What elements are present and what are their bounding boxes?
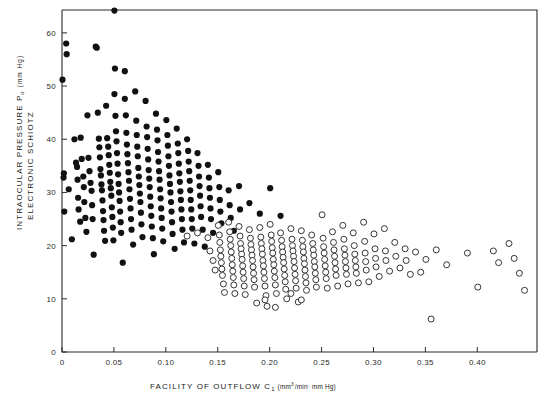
data-point-open [322, 263, 328, 269]
data-point-open [393, 253, 399, 259]
data-point-filled [104, 135, 110, 141]
data-point-filled [257, 211, 263, 217]
data-point-open [333, 266, 339, 272]
data-point-filled [139, 234, 145, 240]
data-point-filled [101, 228, 107, 234]
data-point-open [341, 236, 347, 242]
data-point-filled [80, 173, 86, 179]
data-point-filled [202, 244, 208, 250]
data-points [59, 7, 527, 322]
data-point-filled [125, 160, 131, 166]
data-point-filled [126, 178, 132, 184]
data-point-filled [146, 167, 152, 173]
data-point-open [355, 280, 361, 286]
plot-canvas: 00.050.100.150.200.250.300.350.400102030… [0, 0, 551, 407]
data-point-filled [128, 216, 134, 222]
data-point-open [353, 264, 359, 270]
data-point-filled [207, 195, 213, 201]
data-point-open [258, 234, 264, 240]
data-point-open [332, 260, 338, 266]
data-point-filled [208, 216, 214, 222]
data-point-filled [148, 213, 154, 219]
data-point-filled [197, 193, 203, 199]
data-point-filled [61, 170, 67, 176]
data-point-filled [160, 238, 166, 244]
data-point-filled [137, 199, 143, 205]
data-point-open [207, 248, 213, 254]
data-point-open [271, 268, 277, 274]
data-point-open [335, 283, 341, 289]
data-point-open [237, 233, 243, 239]
data-point-open [352, 251, 358, 257]
data-point-open [329, 229, 335, 235]
data-point-open [220, 281, 226, 287]
data-point-open [261, 276, 267, 282]
data-point-open [242, 292, 248, 298]
data-point-open [260, 263, 266, 269]
data-point-open [257, 225, 263, 231]
data-point-filled [215, 169, 221, 175]
data-point-filled [85, 155, 91, 161]
data-point-filled [122, 68, 128, 74]
data-point-filled [155, 158, 161, 164]
data-point-open [279, 237, 285, 243]
data-point-filled [138, 210, 144, 216]
data-point-filled [71, 136, 77, 142]
data-point-filled [206, 174, 212, 180]
data-point-open [272, 282, 278, 288]
data-point-open [270, 250, 276, 256]
data-point-open [239, 256, 245, 262]
data-point-filled [237, 206, 243, 212]
data-point-filled [63, 40, 69, 46]
data-point-filled [105, 144, 111, 150]
data-point-open [293, 278, 299, 284]
data-point-filled [113, 128, 119, 134]
data-point-open [310, 241, 316, 247]
data-point-filled [267, 185, 273, 191]
data-point-filled [206, 185, 212, 191]
data-point-open [342, 259, 348, 265]
data-point-filled [194, 150, 200, 156]
data-point-open [516, 270, 522, 276]
x-tick-label: 0.15 [209, 358, 226, 367]
data-point-open [303, 280, 309, 286]
data-point-filled [165, 153, 171, 159]
data-point-open [231, 282, 237, 288]
x-tick-label: 0.25 [313, 358, 330, 367]
data-point-open [292, 265, 298, 271]
x-tick-label: 0.40 [469, 358, 486, 367]
data-point-open [240, 269, 246, 275]
data-point-open [372, 246, 378, 252]
x-axis-title: FACILITY OF OUTFLOW C1 (mm3/min· mm Hg) [150, 382, 336, 392]
x-tick-label: 0 [60, 358, 65, 367]
data-point-filled [146, 176, 152, 182]
data-point-filled [179, 216, 185, 222]
data-point-filled [145, 146, 151, 152]
data-point-filled [59, 77, 65, 83]
data-point-filled [90, 216, 96, 222]
data-point-open [218, 260, 224, 266]
data-point-filled [127, 196, 133, 202]
data-point-open [363, 267, 369, 273]
data-point-filled [210, 230, 216, 236]
data-point-open [323, 276, 329, 282]
data-point-open [281, 266, 287, 272]
data-point-filled [207, 205, 213, 211]
data-point-filled [94, 45, 100, 51]
data-point-filled [163, 117, 169, 123]
data-point-filled [113, 138, 119, 144]
data-point-open [205, 235, 211, 241]
data-point-open [217, 247, 223, 253]
data-point-filled [159, 215, 165, 221]
data-point-filled [109, 204, 115, 210]
data-point-open [259, 251, 265, 257]
data-point-filled [159, 226, 165, 232]
data-point-open [262, 283, 268, 289]
data-point-open [229, 255, 235, 261]
data-point-filled [186, 168, 192, 174]
y-tick-label: 20 [47, 242, 57, 251]
data-point-open [252, 284, 258, 290]
data-point-filled [169, 231, 175, 237]
data-point-open [506, 241, 512, 247]
data-point-open [221, 289, 227, 295]
